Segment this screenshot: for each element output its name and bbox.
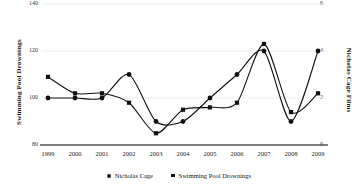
data-point-circle [73,96,78,101]
spurious-correlation-chart: Swimming Pool Drownings Nicholas Cage Fi… [0,0,358,195]
data-point-square [46,75,50,79]
legend-label: Swimming Pool Drownings [179,172,252,179]
data-point-circle [181,119,186,124]
data-point-square [100,91,104,95]
data-point-square [208,105,212,109]
legend-label: Nicholas Cage [115,172,153,179]
series-layer [46,42,321,135]
data-point-circle [289,119,294,124]
legend-item-1[interactable]: Swimming Pool Drownings [171,172,251,179]
data-point-circle [127,72,132,77]
series-line [48,50,318,125]
data-point-square [316,91,320,95]
data-point-circle [262,49,267,54]
plot-area [0,0,358,195]
legend-item-0[interactable]: Nicholas Cage [107,172,153,179]
data-point-square [73,91,77,95]
data-point-square [289,110,293,114]
data-point-circle [154,119,159,124]
data-point-square [127,101,131,105]
data-point-square [262,42,266,46]
data-point-circle [316,49,321,54]
data-point-square [235,101,239,105]
data-point-circle [235,72,240,77]
legend-circle-icon [107,174,111,178]
data-point-circle [46,96,51,101]
legend-square-icon [171,174,175,178]
data-point-square [181,108,185,112]
data-point-circle [208,96,213,101]
data-point-square [154,131,158,135]
data-point-circle [100,96,105,101]
gridlines [42,4,326,98]
chart-legend: Nicholas CageSwimming Pool Drownings [0,172,358,179]
